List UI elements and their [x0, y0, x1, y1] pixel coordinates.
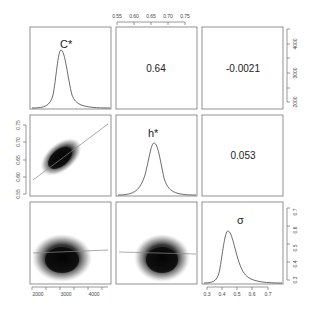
top-axis [117, 22, 185, 25]
bottom-tick-3000: 3000 [60, 291, 71, 297]
right-top-tick-3000: 3000 [292, 67, 298, 78]
bottom-tick-0.6: 0.6 [249, 291, 256, 297]
top-tick-2: 0.65 [146, 13, 156, 19]
pairs-plot: C* h* σ 0.64 -0.0021 0.053 [0, 0, 310, 313]
bottom-tick-4000: 4000 [88, 291, 99, 297]
top-tick-1: 0.60 [129, 13, 139, 19]
bottom-axis-right [207, 287, 268, 290]
left-tick-0.55: 0.55 [15, 189, 21, 199]
top-tick-3: 0.70 [163, 13, 173, 19]
bottom-tick-2000: 2000 [32, 291, 43, 297]
right-bottom-tick-0.3: 0.3 [292, 276, 298, 283]
bottom-tick-0.3: 0.3 [204, 291, 211, 297]
label-c: C* [60, 38, 73, 50]
label-h: h* [148, 127, 159, 139]
label-sigma: σ [237, 214, 244, 226]
right-bottom-tick-0.5: 0.5 [292, 244, 298, 251]
right-bottom-tick-0.6: 0.6 [292, 226, 298, 233]
left-tick-0.60: 0.60 [15, 172, 21, 182]
scatter-c-h [33, 124, 108, 183]
right-top-tick-4000: 4000 [292, 38, 298, 49]
density-sigma-panel: σ [204, 214, 282, 283]
bottom-tick-0.7: 0.7 [265, 291, 272, 297]
left-axis-mid [23, 125, 26, 194]
top-tick-4: 0.75 [180, 13, 190, 19]
right-bottom-tick-0.4: 0.4 [292, 260, 298, 267]
right-top-tick-2000: 2000 [292, 96, 298, 107]
left-tick-0.65: 0.65 [15, 155, 21, 165]
scatter-c-sigma [32, 234, 108, 282]
correlation-h-sigma: 0.053 [230, 150, 255, 161]
bottom-tick-0.4: 0.4 [219, 291, 226, 297]
right-axis-bottom [287, 208, 290, 280]
scatter-h-sigma [119, 234, 196, 282]
density-c-panel: C* [32, 38, 110, 108]
correlation-c-h: 0.64 [146, 63, 166, 74]
left-tick-0.75: 0.75 [15, 120, 21, 130]
right-bottom-tick-0.7: 0.7 [292, 208, 298, 215]
density-h-panel: h* [118, 127, 196, 195]
left-tick-0.70: 0.70 [15, 137, 21, 147]
bottom-axis-left [32, 287, 108, 290]
correlation-c-sigma: -0.0021 [226, 63, 260, 74]
top-tick-0: 0.55 [112, 13, 122, 19]
bottom-tick-0.5: 0.5 [234, 291, 241, 297]
right-axis-top [287, 29, 290, 102]
